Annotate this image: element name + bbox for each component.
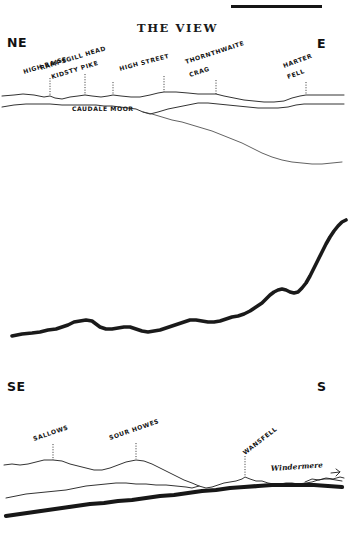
panorama-page: THE VIEW NE E HIGH RAISE RAMPSGILL HEAD … — [0, 0, 348, 550]
ridge-line-ne-e-skyline — [2, 92, 344, 102]
panel-se-s: SE S SALLOWS SOUR HOWES WANSFELL Winderm… — [4, 379, 344, 516]
peak-label-fell: FELL — [286, 67, 306, 80]
compass-label-s: S — [317, 379, 327, 394]
peak-label-wansfell: WANSFELL — [241, 425, 278, 456]
peak-label-harter: HARTER — [282, 52, 313, 69]
compass-label-se: SE — [7, 379, 26, 394]
compass-label-ne: NE — [7, 35, 27, 50]
peak-label-thornthwaite: THORNTHWAITE — [184, 39, 245, 65]
panel-middle-ridge — [12, 220, 346, 336]
peak-label-crag: CRAG — [188, 65, 210, 78]
compass-label-e: E — [317, 36, 326, 51]
page-title: THE VIEW — [137, 21, 218, 35]
peak-label-high-street: HIGH STREET — [118, 52, 170, 72]
ridge-line-ne-e-second — [2, 103, 344, 114]
windermere-pointer-icon — [331, 469, 340, 476]
panel-ne-e: THE VIEW NE E HIGH RAISE RAMPSGILL HEAD … — [2, 21, 344, 164]
ridge-line-se-s-foreground — [6, 485, 342, 516]
ridge-line-middle — [12, 220, 346, 336]
peak-label-sour-howes: SOUR HOWES — [108, 417, 160, 441]
ridge-line-windermere-water — [305, 477, 344, 482]
header-rule — [231, 5, 322, 8]
ridge-line-ne-e-foreground — [143, 112, 342, 164]
water-label-windermere: Windermere — [271, 460, 324, 473]
panorama-drawing: THE VIEW NE E HIGH RAISE RAMPSGILL HEAD … — [0, 0, 348, 550]
peak-label-sallows: SALLOWS — [32, 423, 69, 442]
